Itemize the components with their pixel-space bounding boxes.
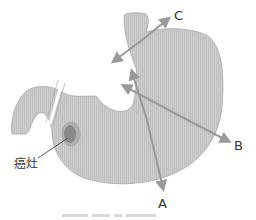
stomach-diagram: 癌灶 A B C [0,0,256,220]
lesion-inner [64,125,76,143]
label-b: B [234,138,243,153]
label-a: A [158,196,167,211]
caption-cutoff [62,214,182,220]
label-c: C [174,8,183,23]
lesion-label: 癌灶 [14,156,38,171]
stomach-shape [12,13,223,184]
